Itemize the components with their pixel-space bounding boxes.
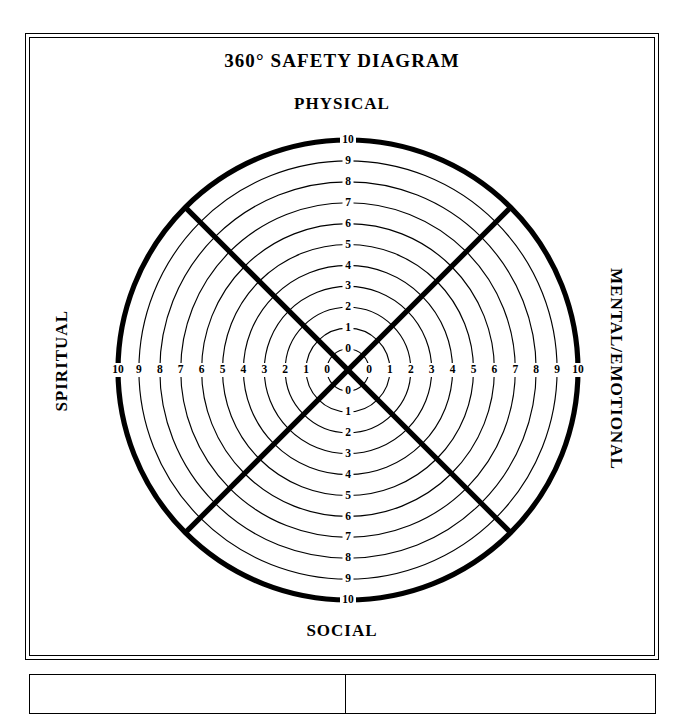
tick-label: 8	[157, 363, 163, 375]
page-title: 360° SAFETY DIAGRAM	[0, 50, 684, 72]
tick-label: 3	[261, 363, 267, 375]
tick-label: 3	[429, 363, 435, 375]
tick-label: 10	[112, 363, 124, 375]
tick-label: 8	[345, 175, 351, 187]
tick-label: 7	[512, 363, 518, 375]
tick-label: 6	[345, 217, 351, 229]
tick-label: 6	[199, 363, 205, 375]
tick-label: 7	[345, 530, 351, 542]
tick-label: 6	[345, 510, 351, 522]
tick-label: 5	[345, 489, 351, 501]
tick-label: 9	[345, 154, 351, 166]
tick-label: 5	[471, 363, 477, 375]
tick-labels-mental-emotional-axis: 012345678910	[364, 363, 587, 377]
tick-label: 9	[345, 572, 351, 584]
axis-label-mental-emotional: MENTAL/EMOTIONAL	[586, 268, 626, 470]
tick-label: 8	[345, 551, 351, 563]
tick-label: 10	[572, 363, 584, 375]
tick-label: 10	[342, 133, 354, 145]
notes-cell-right[interactable]	[346, 675, 655, 713]
axis-label-physical: PHYSICAL	[0, 94, 684, 114]
tick-label: 2	[408, 363, 414, 375]
tick-label: 4	[450, 363, 456, 375]
tick-label: 8	[533, 363, 539, 375]
tick-label: 10	[342, 593, 354, 605]
tick-label: 7	[178, 363, 184, 375]
tick-label: 9	[136, 363, 142, 375]
notes-cell-left[interactable]	[30, 675, 346, 713]
tick-label: 0	[366, 363, 372, 375]
axis-label-social: SOCIAL	[0, 621, 684, 641]
tick-label: 3	[345, 279, 351, 291]
tick-label: 0	[324, 363, 330, 375]
tick-label: 6	[492, 363, 498, 375]
tick-label: 9	[554, 363, 560, 375]
axis-label-spiritual: SPIRITUAL	[52, 310, 92, 412]
tick-label: 0	[345, 384, 351, 396]
tick-label: 7	[345, 196, 351, 208]
tick-label: 1	[345, 321, 351, 333]
tick-labels-spiritual-axis: 109876543210	[110, 363, 333, 377]
notes-table	[29, 674, 656, 714]
tick-label: 1	[303, 363, 309, 375]
tick-label: 2	[345, 426, 351, 438]
tick-label: 2	[282, 363, 288, 375]
tick-label: 5	[220, 363, 226, 375]
tick-label: 0	[345, 342, 351, 354]
tick-label: 4	[345, 259, 351, 271]
tick-label: 2	[345, 300, 351, 312]
tick-label: 4	[345, 468, 351, 480]
tick-label: 1	[345, 405, 351, 417]
tick-label: 4	[241, 363, 247, 375]
tick-label: 5	[345, 238, 351, 250]
tick-label: 1	[387, 363, 393, 375]
tick-label: 3	[345, 447, 351, 459]
